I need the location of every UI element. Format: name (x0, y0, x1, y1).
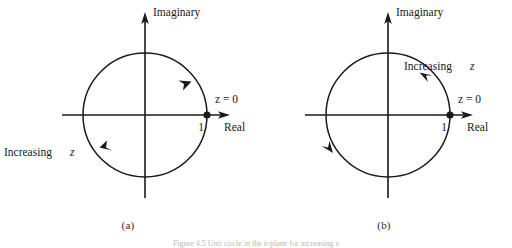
direction-arrow-lower-left-b-icon (322, 141, 334, 153)
real-axis-label-b: Real (467, 121, 488, 133)
increasing-z-annotation-b: Increasing z (404, 60, 475, 73)
panel-label-b: (b) (256, 219, 512, 231)
figure-caption: Figure 4.5 Unit circle in the z-plane fo… (0, 239, 512, 248)
increasing-variable-b: z (469, 60, 475, 72)
direction-arrow-upper-right-a-icon (179, 81, 192, 91)
imaginary-axis-label-b: Imaginary (396, 6, 444, 19)
increasing-variable-a: z (69, 146, 75, 158)
unit-point-marker-a (203, 111, 210, 118)
increasing-label-b: Increasing (404, 60, 452, 73)
panel-a-diagram: Imaginary Real z = 0 1 Increasing z (0, 0, 256, 218)
unit-point-marker-b (446, 111, 453, 118)
figure-panel-b: Imaginary Real z = 0 1 Increasing z (b) (256, 0, 512, 246)
panel-b-diagram: Imaginary Real z = 0 1 Increasing z (256, 0, 512, 218)
direction-arrow-lower-left-a-icon (100, 141, 113, 151)
figure-panel-a: Imaginary Real z = 0 1 Increasing z (a) (0, 0, 256, 246)
imaginary-axis-b (384, 12, 392, 198)
direction-arrow-upper-right-b-icon (420, 73, 433, 83)
unit-point-label-a: 1 (198, 121, 204, 133)
imaginary-axis-a (141, 12, 149, 198)
increasing-z-annotation-a: Increasing z (4, 146, 75, 159)
real-axis-label-a: Real (224, 121, 245, 133)
unit-point-label-b: 1 (441, 121, 447, 133)
origin-point-label-a: z = 0 (215, 93, 238, 105)
origin-point-label-b: z = 0 (458, 93, 481, 105)
imaginary-axis-label-a: Imaginary (153, 6, 201, 19)
increasing-label-a: Increasing (4, 146, 52, 159)
